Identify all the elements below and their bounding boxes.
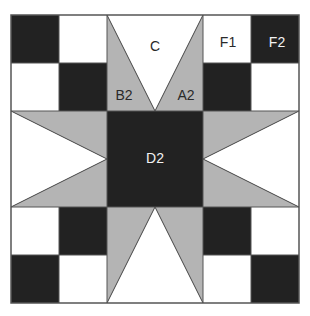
label-d2: D2 bbox=[146, 151, 164, 165]
label-f2: F2 bbox=[269, 35, 285, 49]
label-b2: B2 bbox=[115, 88, 132, 102]
label-a2: A2 bbox=[177, 88, 194, 102]
star-point-right bbox=[203, 111, 299, 207]
label-f1: F1 bbox=[220, 35, 236, 49]
label-c: C bbox=[150, 39, 160, 53]
star-point-left bbox=[11, 111, 107, 207]
star-point-bottom bbox=[107, 207, 203, 303]
